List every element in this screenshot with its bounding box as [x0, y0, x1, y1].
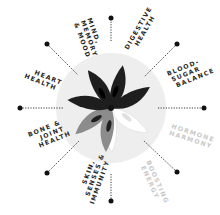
label-hormone-harmony: HORMONE HARMONY	[169, 122, 220, 150]
label-digestive-health: DIGESTIVE HEALTH	[123, 2, 161, 54]
dot-lower-left	[45, 171, 50, 176]
dot-right	[202, 106, 207, 111]
wellness-diagram: MIND, MEMORY & MOOD DIGESTIVE HEALTH BLO…	[0, 0, 220, 215]
dot-upper-right	[175, 42, 180, 47]
dot-bottom	[109, 199, 114, 204]
flower-center	[108, 105, 114, 111]
spoke-upper-left	[47, 44, 78, 75]
dot-upper-left	[45, 42, 50, 47]
dot-lower-right	[175, 170, 180, 175]
label-blood-sugar-balance: BLOOD- SUGAR BALANCE	[166, 53, 216, 89]
dot-left	[18, 106, 23, 111]
label-energy-boosting: ENERGY BOOSTING	[139, 159, 171, 208]
dot-top	[109, 16, 114, 21]
